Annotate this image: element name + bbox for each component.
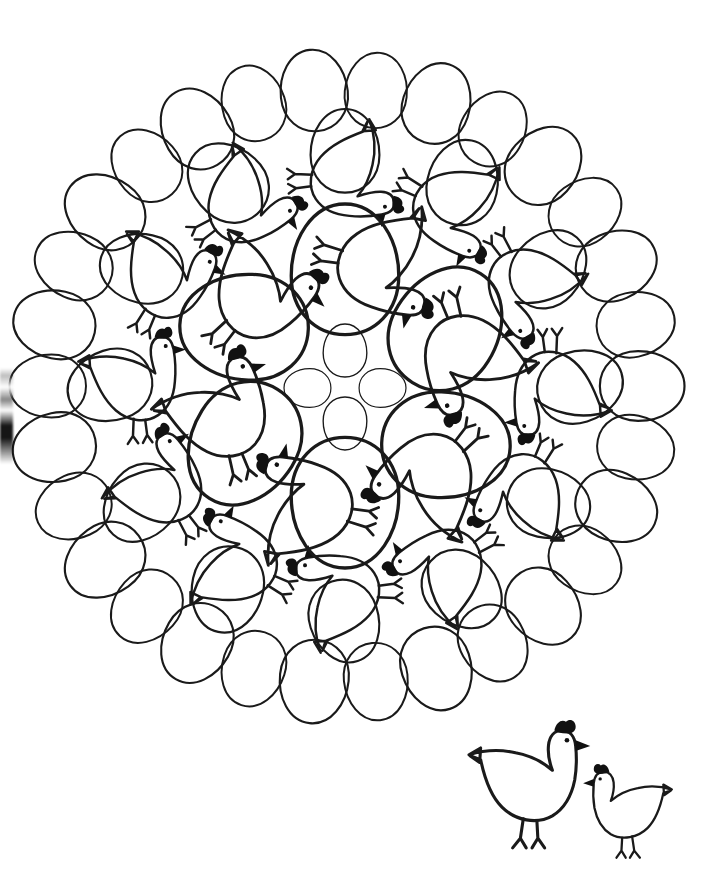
coloring-page (0, 0, 704, 873)
artwork-canvas (0, 0, 704, 873)
